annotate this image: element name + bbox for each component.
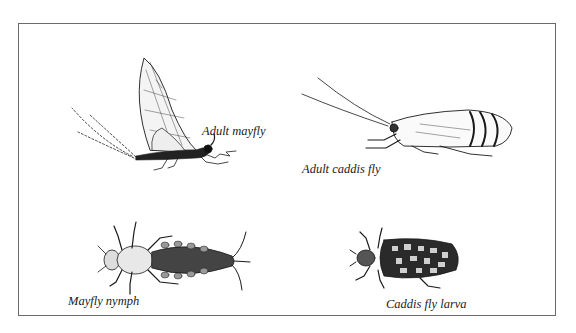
caddis-fly-larva-illustration [350, 228, 458, 288]
label-adult-mayfly: Adult mayfly [202, 124, 266, 139]
label-mayfly-nymph: Mayfly nymph [68, 294, 139, 309]
insect-illustrations [0, 0, 576, 333]
label-caddis-fly-larva: Caddis fly larva [386, 297, 467, 312]
label-adult-caddis-fly: Adult caddis fly [302, 162, 380, 177]
adult-mayfly-illustration [72, 58, 236, 170]
adult-caddis-fly-illustration [302, 78, 512, 156]
mayfly-nymph-illustration [98, 222, 250, 294]
